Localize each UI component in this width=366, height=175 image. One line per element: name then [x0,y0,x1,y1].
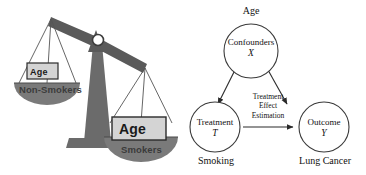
scale-pivot [93,35,104,46]
scale-column [84,44,111,142]
outcome-node-title: Outcome [294,118,354,127]
causal-dag-graphic [183,0,366,175]
tee-line-3: Estimation [237,111,299,120]
tee-line-1: Treatment [237,92,299,101]
confounders-node-variable: X [217,49,285,59]
treatment-node-title: Treatment [185,118,245,127]
right-pan-string-center [141,68,145,123]
treatment-effect-estimation-label: Treatment Effect Estimation [237,92,299,120]
left-pan-age-label: Age [30,68,48,77]
right-pan-age-label: Age [119,122,146,136]
right-pan-string-left [110,68,145,123]
right-pan-string-right [145,68,172,123]
treatment-node-variable: T [185,129,245,139]
causal-dag-diagram: Age Confounders X Treatment T Smoking Ou… [183,0,366,175]
outcome-outer-label: Lung Cancer [287,156,363,167]
confounders-node-title: Confounders [217,38,285,47]
outcome-node-variable: Y [294,129,354,139]
treatment-outer-label: Smoking [183,156,249,167]
figure-root: Age Non-Smokers Age Smokers Age C [0,0,366,175]
right-pan-group-label: Smokers [121,145,162,155]
tee-line-2: Effect [237,101,299,110]
balance-scale-illustration: Age Non-Smokers Age Smokers [0,0,183,175]
edge-confounders-to-treatment [218,70,235,104]
left-pan-group-label: Non-Smokers [19,85,82,95]
confounders-outer-label: Age [228,6,274,17]
